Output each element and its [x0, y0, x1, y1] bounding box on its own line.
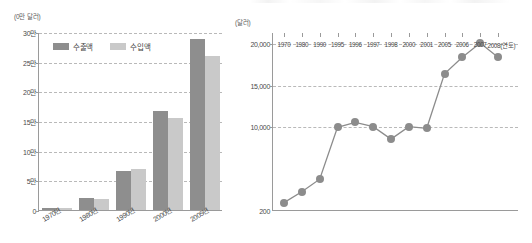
- x-axis-tick-mark: [338, 33, 339, 37]
- per-capita-line-chart: (달러) 20,00015,00010,000200 1970198019901…: [240, 0, 532, 243]
- bar-export: [190, 39, 205, 210]
- x-axis-tick-mark: [462, 33, 463, 37]
- bar-export: [116, 171, 131, 210]
- data-point: [387, 135, 395, 143]
- y-axis-tick-label: 15,000: [250, 82, 270, 89]
- x-axis-tick-mark: [391, 33, 392, 37]
- bar-chart-legend: 수출액 수입액: [53, 41, 150, 52]
- data-point: [458, 53, 466, 61]
- x-axis-tick-mark: [427, 33, 428, 37]
- y-axis-tick-label: 20만: [23, 87, 36, 97]
- data-point: [298, 188, 306, 196]
- y-axis-tick-label: 10만: [23, 147, 36, 157]
- x-axis-tick-mark: [409, 33, 410, 37]
- bar-export: [153, 111, 168, 210]
- x-axis-tick-mark: [480, 33, 481, 37]
- x-axis-tick-label: 1998: [385, 41, 398, 48]
- legend-item-import: 수입액: [110, 41, 150, 52]
- bar-chart-unit-label: (0만 달러): [14, 11, 40, 21]
- line-chart-unit-label: (달러): [235, 17, 251, 27]
- x-axis-tick-mark: [373, 33, 374, 37]
- bar-import: [131, 169, 146, 210]
- x-axis-tick-mark: [445, 33, 446, 37]
- bar-group: [76, 33, 113, 210]
- bar-group: [149, 33, 186, 210]
- bar-group: [39, 33, 76, 210]
- line-chart-path: [273, 33, 519, 211]
- legend-label-import: 수입액: [130, 41, 150, 52]
- x-axis-tick-label: 1970: [278, 41, 291, 48]
- x-axis-tick-label: 2000: [402, 41, 415, 48]
- y-axis-tick-label: 5만: [27, 176, 36, 186]
- legend-label-export: 수출액: [73, 41, 93, 52]
- y-axis-tick-label: 20,000: [250, 40, 270, 47]
- bar-chart-plot-area: 30만25만20만15만10만5만0 1970년1980년1990년2000년2…: [38, 33, 222, 211]
- x-axis-tick-mark: [284, 33, 285, 37]
- x-axis-tick-mark: [498, 33, 499, 37]
- y-axis-tick-label: 25만: [23, 58, 36, 68]
- bar-import: [168, 118, 183, 210]
- x-axis-tick-mark: [302, 33, 303, 37]
- legend-swatch-import-icon: [110, 43, 126, 50]
- data-point: [369, 123, 377, 131]
- x-axis-tick-label: 2006: [456, 41, 469, 48]
- y-axis-tick-label: 30만: [23, 28, 36, 38]
- figure-page: (0만 달러) 30만25만20만15만10만5만0 1970년1980년199…: [0, 0, 532, 243]
- data-point: [351, 118, 359, 126]
- x-axis-tick-label: 2005: [438, 41, 451, 48]
- x-axis-tick-mark: [320, 33, 321, 37]
- x-axis-tick-label: 1996: [349, 41, 362, 48]
- line-chart-plot-area: 20,00015,00010,000200 197019801990199519…: [272, 33, 518, 211]
- data-point: [316, 175, 324, 183]
- data-point: [280, 199, 288, 207]
- legend-swatch-export-icon: [53, 43, 69, 50]
- bar-group: [113, 33, 150, 210]
- trade-bar-chart: (0만 달러) 30만25만20만15만10만5만0 1970년1980년199…: [0, 0, 240, 243]
- x-axis-tick-label: 2007: [474, 41, 487, 48]
- data-point: [423, 124, 431, 132]
- data-point: [441, 70, 449, 78]
- x-axis-tick-label: 1997: [367, 41, 380, 48]
- bar-group: [186, 33, 223, 210]
- x-axis-tick-label: 1990: [313, 41, 326, 48]
- y-axis-tick-label: 10,000: [250, 124, 270, 131]
- legend-item-export: 수출액: [53, 41, 93, 52]
- x-axis-tick-label: 2008(연도): [487, 41, 515, 50]
- y-axis-tick-label: 15만: [23, 117, 36, 127]
- x-axis-tick-label: 1980: [295, 41, 308, 48]
- data-point: [334, 123, 342, 131]
- y-axis-tick-label: 200: [259, 208, 270, 215]
- data-point: [405, 123, 413, 131]
- y-axis-tick-mark: [36, 211, 39, 212]
- bar-import: [205, 56, 220, 210]
- x-axis-tick-label: 1995: [331, 41, 344, 48]
- x-axis-tick-label: 2001: [420, 41, 433, 48]
- x-axis-tick-mark: [355, 33, 356, 37]
- data-point: [494, 53, 502, 61]
